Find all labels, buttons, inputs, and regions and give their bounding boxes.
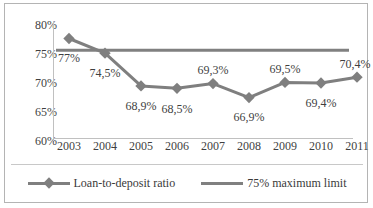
legend-divider [11,164,363,165]
data-label-2003: 77% [47,52,91,64]
legend-item-loan-to-deposit-ratio[interactable]: Loan-to-deposit ratio [28,177,176,189]
x-axis-tick-2011: 2011 [340,140,373,152]
x-axis-tick-2007: 2007 [196,140,230,152]
legend-line-icon [201,177,243,189]
legend-item-maximum-limit[interactable]: 75% maximum limit [201,177,346,189]
x-axis-tick-2010: 2010 [304,140,338,152]
x-axis-tick-2005: 2005 [124,140,158,152]
data-label-2011: 70,4% [333,58,373,70]
x-axis-tick-2004: 2004 [88,140,122,152]
x-axis-tick-2003: 2003 [52,140,86,152]
chart-container: 80% 75% 70% 65% 60% [4,3,368,203]
plot-area: 80% 75% 70% 65% 60% [5,4,369,204]
data-label-2008: 66,9% [227,111,271,123]
x-axis-tick-2006: 2006 [160,140,194,152]
data-label-2010: 69,4% [299,97,343,109]
data-label-2007: 69,3% [191,64,235,76]
x-axis-tick-2009: 2009 [268,140,302,152]
chart-legend: Loan-to-deposit ratio 75% maximum limit [5,172,369,194]
x-axis-tick-2008: 2008 [232,140,266,152]
legend-label-maximum-limit: 75% maximum limit [247,177,346,189]
data-label-2006: 68,5% [155,103,199,115]
legend-label-loan-to-deposit-ratio: Loan-to-deposit ratio [74,177,176,189]
data-label-2009: 69,5% [263,63,307,75]
legend-marker-diamond-icon [28,177,70,189]
data-label-2004: 74,5% [83,67,127,79]
